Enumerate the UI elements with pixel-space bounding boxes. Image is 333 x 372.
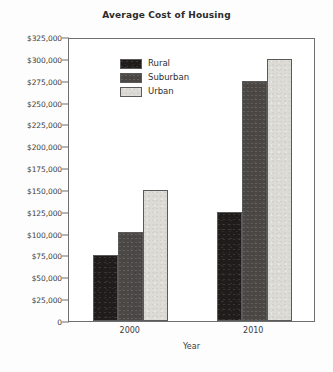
legend-item-suburban: Suburban	[120, 72, 189, 83]
chart-legend: RuralSuburbanUrban	[120, 58, 189, 97]
y-axis-tick-label: $300,000	[27, 55, 62, 64]
legend-swatch-urban-icon	[120, 87, 142, 97]
plot-area: RuralSuburbanUrban	[68, 38, 315, 322]
x-axis-tick-label: 2010	[243, 326, 263, 335]
bar-urban-2000	[143, 190, 168, 321]
legend-label: Urban	[148, 86, 174, 97]
y-axis-tick-label: $175,000	[27, 165, 62, 174]
legend-label: Rural	[148, 58, 170, 69]
y-axis-tick-label: $325,000	[27, 34, 62, 43]
legend-item-rural: Rural	[120, 58, 189, 69]
bar-rural-2010	[217, 212, 242, 321]
legend-label: Suburban	[148, 72, 189, 83]
chart-title: Average Cost of Housing	[0, 10, 333, 20]
y-axis-tick-label: $250,000	[27, 99, 62, 108]
x-axis-tick-label: 2000	[120, 326, 140, 335]
y-axis-tick-label: $50,000	[32, 274, 62, 283]
bar-rural-2000	[93, 255, 118, 321]
y-axis-tick-label: $125,000	[27, 208, 62, 217]
y-axis-tick-label: $200,000	[27, 143, 62, 152]
bars-layer	[69, 39, 314, 321]
bar-suburban-2010	[242, 81, 267, 321]
chart-figure: Average Cost of Housing $325,000$300,000…	[0, 0, 333, 372]
bar-urban-2010	[267, 59, 292, 321]
legend-swatch-suburban-icon	[120, 73, 142, 83]
x-axis-title: Year	[68, 342, 315, 351]
x-axis-tick-labels: 20002010	[68, 326, 315, 340]
bar-suburban-2000	[118, 232, 143, 321]
legend-swatch-rural-icon	[120, 59, 142, 69]
y-axis-tick-label: $150,000	[27, 186, 62, 195]
y-axis-tick-label: $225,000	[27, 121, 62, 130]
y-axis-tick-label: $100,000	[27, 230, 62, 239]
y-axis-tick-label: $275,000	[27, 77, 62, 86]
y-axis-tick-label: $75,000	[32, 252, 62, 261]
legend-item-urban: Urban	[120, 86, 189, 97]
y-axis-tick-label: $25,000	[32, 296, 62, 305]
y-axis-tick-labels: $325,000$300,000$275,000$250,000$225,000…	[0, 38, 62, 322]
